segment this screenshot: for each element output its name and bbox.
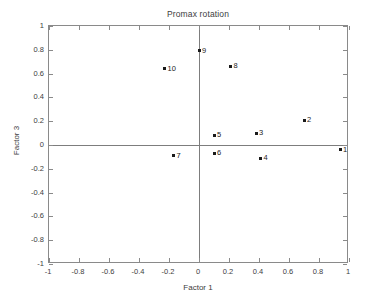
data-point-marker bbox=[339, 148, 342, 151]
y-axis-tick bbox=[49, 97, 53, 98]
x-axis-tick bbox=[79, 258, 80, 262]
data-point-marker bbox=[213, 134, 216, 137]
x-axis-tick bbox=[349, 258, 350, 262]
data-point-marker bbox=[229, 65, 232, 68]
data-point-label: 4 bbox=[264, 153, 268, 162]
y-axis-tick-right bbox=[343, 74, 347, 75]
x-axis-tick bbox=[139, 258, 140, 262]
y-axis-tick-label: 1 bbox=[14, 21, 44, 30]
x-axis-tick-top bbox=[139, 26, 140, 30]
x-axis-tick-top bbox=[319, 26, 320, 30]
y-axis-tick bbox=[49, 193, 53, 194]
x-axis-tick-top bbox=[259, 26, 260, 30]
page-title: Promax rotation bbox=[48, 9, 348, 19]
data-point-marker bbox=[303, 119, 306, 122]
data-point-label: 9 bbox=[202, 46, 206, 55]
data-point-label: 7 bbox=[177, 151, 181, 160]
x-axis-tick-top bbox=[79, 26, 80, 30]
x-axis-tick bbox=[49, 258, 50, 262]
y-axis-tick bbox=[49, 240, 53, 241]
x-axis-tick bbox=[169, 258, 170, 262]
data-point-marker bbox=[172, 154, 175, 157]
x-axis-tick-label: -1 bbox=[45, 267, 52, 276]
y-axis-tick bbox=[49, 50, 53, 51]
x-axis-tick-top bbox=[109, 26, 110, 30]
y-axis-tick-right bbox=[343, 240, 347, 241]
x-axis-tick-label: -0.4 bbox=[132, 267, 145, 276]
y-axis-tick-right bbox=[343, 50, 347, 51]
y-axis-tick-label: -0.8 bbox=[14, 235, 44, 244]
y-axis-tick-right bbox=[343, 97, 347, 98]
y-axis-tick-right bbox=[343, 169, 347, 170]
x-axis-tick bbox=[319, 258, 320, 262]
data-point-marker bbox=[163, 67, 166, 70]
data-point-label: 5 bbox=[217, 130, 221, 139]
data-point-marker bbox=[255, 132, 258, 135]
x-axis-tick-label: 0.6 bbox=[283, 267, 293, 276]
x-axis-tick bbox=[229, 258, 230, 262]
x-axis-tick-top bbox=[289, 26, 290, 30]
y-axis-tick bbox=[49, 26, 53, 27]
y-axis-tick bbox=[49, 169, 53, 170]
y-axis-tick-right bbox=[343, 26, 347, 27]
x-axis-tick-label: -0.2 bbox=[162, 267, 175, 276]
vertical-zero-axis-line bbox=[199, 26, 200, 262]
plot-area: 12345678910 bbox=[48, 25, 348, 263]
y-axis-tick-label: -0.4 bbox=[14, 187, 44, 196]
data-point-marker bbox=[213, 152, 216, 155]
x-axis-title: Factor 1 bbox=[48, 283, 348, 292]
data-point-label: 1 bbox=[343, 145, 347, 154]
y-axis-tick-label: 0.8 bbox=[14, 44, 44, 53]
x-axis-tick-label: 0 bbox=[196, 267, 200, 276]
y-axis-tick-right bbox=[343, 193, 347, 194]
x-axis-tick bbox=[109, 258, 110, 262]
data-point-label: 8 bbox=[234, 61, 238, 70]
y-axis-tick bbox=[49, 121, 53, 122]
data-point-label: 10 bbox=[168, 64, 176, 73]
x-axis-tick-label: 0.8 bbox=[313, 267, 323, 276]
y-axis-tick bbox=[49, 264, 53, 265]
data-point-marker bbox=[198, 49, 201, 52]
y-axis-tick bbox=[49, 74, 53, 75]
x-axis-tick-label: 0.2 bbox=[223, 267, 233, 276]
x-axis-tick-top bbox=[349, 26, 350, 30]
y-axis-tick bbox=[49, 216, 53, 217]
x-axis-tick bbox=[259, 258, 260, 262]
y-axis-tick-label: -1 bbox=[14, 259, 44, 268]
x-axis-tick-top bbox=[229, 26, 230, 30]
data-point-label: 2 bbox=[307, 115, 311, 124]
x-axis-tick-top bbox=[199, 26, 200, 30]
data-point-label: 6 bbox=[217, 148, 221, 157]
y-axis-tick bbox=[49, 145, 53, 146]
x-axis-tick bbox=[199, 258, 200, 262]
y-axis-tick-label: -0.6 bbox=[14, 211, 44, 220]
y-axis-tick-label: 0.6 bbox=[14, 68, 44, 77]
x-axis-tick-label: -0.8 bbox=[72, 267, 85, 276]
x-axis-tick-label: -0.6 bbox=[102, 267, 115, 276]
y-axis-tick-right bbox=[343, 121, 347, 122]
data-point-label: 3 bbox=[259, 128, 263, 137]
y-axis-tick-right bbox=[343, 264, 347, 265]
x-axis-tick bbox=[289, 258, 290, 262]
x-axis-tick-label: 1 bbox=[346, 267, 350, 276]
horizontal-zero-axis-line bbox=[49, 145, 347, 146]
x-axis-tick-top bbox=[169, 26, 170, 30]
y-axis-tick-right bbox=[343, 216, 347, 217]
x-axis-tick-label: 0.4 bbox=[253, 267, 263, 276]
scatter-plot-figure: Promax rotation 12345678910 -1-0.8-0.6-0… bbox=[0, 0, 370, 299]
y-axis-title: Factor 3 bbox=[12, 101, 21, 181]
data-point-marker bbox=[259, 157, 262, 160]
